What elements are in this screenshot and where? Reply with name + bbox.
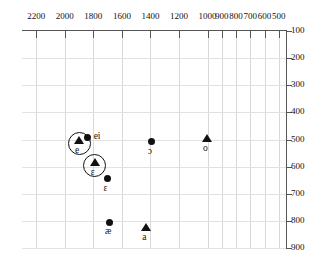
vowel-formant-chart: 2200200018001600140012001000900800700600… bbox=[0, 0, 334, 262]
triangle-marker-icon bbox=[202, 134, 212, 142]
triangle-marker-icon bbox=[74, 136, 84, 144]
x-tick-mark bbox=[279, 31, 280, 38]
top-axis-line bbox=[22, 30, 287, 31]
x-tick-mark bbox=[250, 31, 251, 38]
y-tick-label: 500 bbox=[291, 135, 305, 144]
triangle-marker-icon bbox=[90, 158, 100, 166]
y-tick-label: 200 bbox=[291, 53, 305, 62]
x-tick-mark bbox=[122, 31, 123, 38]
gridline-horizontal bbox=[22, 112, 286, 113]
data-point-label: æ bbox=[105, 227, 111, 237]
x-tick-mark bbox=[236, 31, 237, 38]
data-point-label: ɛ bbox=[104, 184, 108, 194]
gridline-horizontal bbox=[22, 58, 286, 59]
y-tick-label: 400 bbox=[291, 107, 305, 116]
y-tick-label: 300 bbox=[291, 80, 305, 89]
data-point-label: ei bbox=[94, 132, 101, 142]
y-tick-label: 100 bbox=[291, 26, 305, 35]
data-point-label: a bbox=[142, 233, 146, 243]
gridline-horizontal bbox=[22, 167, 286, 168]
data-point-label: o bbox=[203, 144, 208, 154]
gridline-horizontal bbox=[22, 85, 286, 86]
x-tick-mark bbox=[150, 31, 151, 38]
x-tick-label: 500 bbox=[259, 12, 299, 21]
x-tick-mark bbox=[65, 31, 66, 38]
gridline-horizontal bbox=[22, 194, 286, 195]
y-tick-label: 600 bbox=[291, 162, 305, 171]
data-point-label: ɔ bbox=[148, 147, 152, 157]
gridline-horizontal bbox=[22, 248, 286, 249]
x-tick-mark bbox=[208, 31, 209, 38]
y-tick-label: 800 bbox=[291, 216, 305, 225]
data-point-label: e bbox=[75, 146, 79, 156]
data-point-label: ɛ bbox=[91, 168, 95, 178]
y-tick-label: 700 bbox=[291, 189, 305, 198]
x-tick-mark bbox=[222, 31, 223, 38]
x-tick-mark bbox=[36, 31, 37, 38]
x-tick-mark bbox=[265, 31, 266, 38]
dot-marker-icon bbox=[106, 219, 113, 226]
triangle-marker-icon bbox=[141, 223, 151, 231]
y-tick-label: 900 bbox=[291, 243, 305, 252]
gridline-horizontal bbox=[22, 221, 286, 222]
x-tick-mark bbox=[93, 31, 94, 38]
x-tick-mark bbox=[179, 31, 180, 38]
dot-marker-icon bbox=[84, 134, 91, 141]
